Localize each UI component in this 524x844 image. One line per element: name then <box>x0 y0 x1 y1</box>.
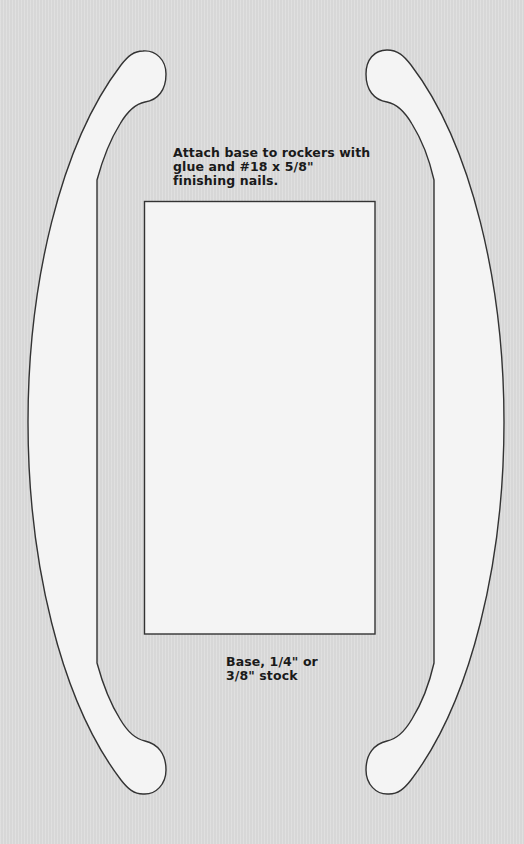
rocker-base-diagram <box>0 0 524 844</box>
base-board <box>145 202 376 635</box>
base-dimension-label: Base, 1/4" or 3/8" stock <box>226 655 346 683</box>
attach-instruction-label: Attach base to rockers with glue and #18… <box>173 146 373 188</box>
right-rocker <box>366 50 504 794</box>
